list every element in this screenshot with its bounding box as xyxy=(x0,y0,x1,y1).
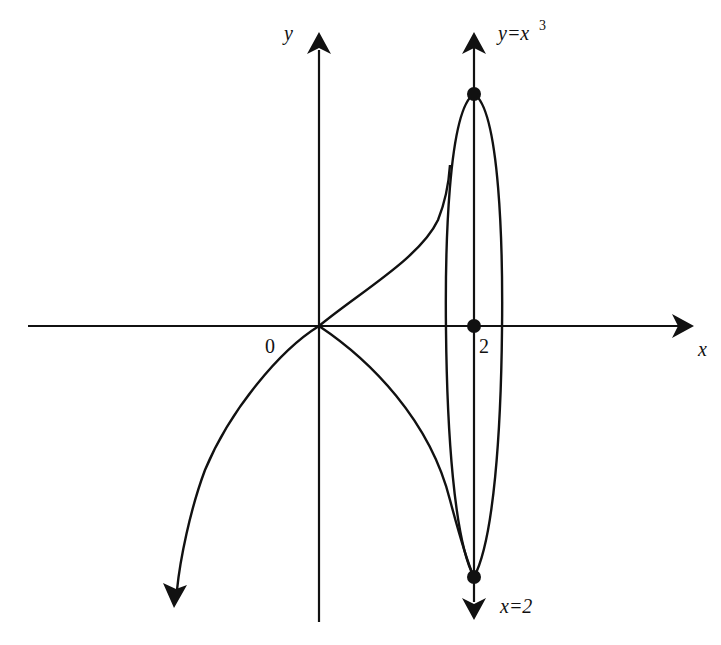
graph-canvas: y x 0 2 y=x 3 x=2 xyxy=(0,0,721,645)
y-axis-label: y xyxy=(282,22,293,45)
svg-text:3: 3 xyxy=(539,18,546,33)
point-2-0 xyxy=(467,319,481,333)
origin-label: 0 xyxy=(265,335,275,357)
bottom-point xyxy=(467,570,481,584)
upper-branch-curve xyxy=(319,165,450,326)
curve-label-x-equals-2: x=2 xyxy=(499,595,532,617)
x-axis xyxy=(28,314,694,338)
branch-down-arrow-icon xyxy=(163,583,187,608)
svg-text:y=x: y=x xyxy=(496,22,529,45)
tick-label-2: 2 xyxy=(479,335,489,357)
top-point xyxy=(467,87,481,101)
lower-left-branch-curve xyxy=(177,326,319,590)
curve-label-y-equals-x-cubed: y=x 3 xyxy=(496,18,546,45)
x-axis-label: x xyxy=(697,338,707,360)
